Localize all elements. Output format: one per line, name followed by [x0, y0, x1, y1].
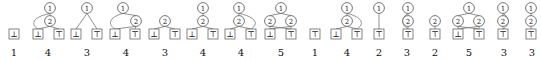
- diagram-canvas: ⊤12: [490, 0, 518, 45]
- svg-text:2: 2: [289, 18, 293, 26]
- diagram-size-label: 3: [501, 45, 507, 60]
- leaf-true: ⊤: [54, 29, 64, 39]
- diagram-14: ⊥⊤1225: [448, 0, 490, 60]
- var-node-1: 1: [82, 3, 93, 14]
- diagram-1: ⊥1: [0, 0, 28, 60]
- diagram-canvas: ⊥⊤12: [106, 0, 146, 45]
- edge-n1-n2: [270, 13, 281, 15]
- var-node-2: 2: [474, 16, 485, 27]
- leaf-false: ⊥: [453, 29, 463, 39]
- diagram-size-label: 3: [404, 45, 410, 60]
- edge-n1-l0: [110, 13, 123, 29]
- svg-text:⊤: ⊤: [93, 30, 101, 39]
- leaf-true: ⊤: [352, 29, 362, 39]
- svg-text:1: 1: [529, 5, 533, 13]
- svg-text:2: 2: [477, 18, 481, 26]
- var-node-1: 1: [498, 3, 509, 14]
- svg-text:2: 2: [406, 18, 410, 26]
- diagram-canvas: ⊤: [302, 0, 328, 45]
- edge-n1-l1: [87, 13, 97, 29]
- svg-text:⊥: ⊥: [266, 30, 274, 39]
- diagram-canvas: ⊥⊤12: [328, 0, 366, 45]
- diagram-size-label: 4: [344, 45, 350, 60]
- diagram-size-label: 5: [466, 45, 472, 60]
- svg-text:2: 2: [501, 18, 505, 26]
- var-node-2: 2: [160, 16, 171, 27]
- leaf-true: ⊤: [374, 29, 384, 39]
- var-node-2: 2: [403, 16, 414, 27]
- svg-text:⊤: ⊤: [247, 30, 255, 39]
- diagram-canvas: ⊤1: [366, 0, 392, 45]
- diagram-size-label: 5: [278, 45, 284, 60]
- svg-text:⊤: ⊤: [499, 30, 507, 39]
- diagram-canvas: ⊥⊤12: [222, 0, 260, 45]
- diagram-16: ⊤123: [518, 0, 541, 60]
- diagram-8: ⊥⊤1225: [260, 0, 302, 60]
- var-node-1: 1: [198, 3, 209, 14]
- var-node-2: 2: [453, 16, 464, 27]
- svg-text:2: 2: [163, 18, 167, 26]
- leaf-false: ⊥: [149, 29, 159, 39]
- svg-text:⊤: ⊤: [55, 30, 63, 39]
- diagram-5: ⊥⊤23: [146, 0, 184, 60]
- diagram-3: ⊥⊤13: [68, 0, 106, 60]
- leaf-true: ⊤: [474, 29, 484, 39]
- diagram-7: ⊥⊤124: [222, 0, 260, 60]
- edge-n1-n3: [281, 13, 291, 15]
- leaf-false: ⊥: [33, 29, 43, 39]
- diagram-10: ⊥⊤124: [328, 0, 366, 60]
- svg-text:⊤: ⊤: [209, 30, 217, 39]
- svg-text:2: 2: [433, 18, 437, 26]
- diagram-12: ⊤123: [392, 0, 422, 60]
- svg-text:⊥: ⊥: [150, 30, 158, 39]
- var-node-2: 2: [498, 16, 509, 27]
- svg-text:⊥: ⊥: [111, 30, 119, 39]
- leaf-true: ⊤: [246, 29, 256, 39]
- diagram-size-label: 4: [123, 45, 129, 60]
- svg-text:2: 2: [456, 18, 460, 26]
- diagram-13: ⊤22: [422, 0, 448, 60]
- var-node-1: 1: [118, 3, 129, 14]
- diagram-4: ⊥⊤124: [106, 0, 146, 60]
- svg-text:⊥: ⊥: [332, 30, 340, 39]
- svg-text:2: 2: [345, 18, 349, 26]
- svg-text:⊤: ⊤: [287, 30, 295, 39]
- diagram-canvas: ⊥: [0, 0, 28, 45]
- diagram-2: ⊥⊤124: [28, 0, 68, 60]
- svg-text:⊤: ⊤: [131, 30, 139, 39]
- leaf-true: ⊤: [170, 29, 180, 39]
- var-node-1: 1: [403, 3, 414, 14]
- svg-text:⊥: ⊥: [226, 30, 234, 39]
- svg-text:⊥: ⊥: [188, 30, 196, 39]
- svg-text:1: 1: [85, 5, 89, 13]
- svg-text:2: 2: [237, 18, 241, 26]
- diagram-canvas: ⊤2: [422, 0, 448, 45]
- svg-text:1: 1: [201, 5, 205, 13]
- svg-text:1: 1: [237, 5, 241, 13]
- leaf-false: ⊥: [9, 29, 19, 39]
- diagram-6: ⊥⊤124: [184, 0, 222, 60]
- leaf-false: ⊥: [71, 29, 81, 39]
- var-node-1: 1: [45, 3, 56, 14]
- svg-text:2: 2: [48, 18, 52, 26]
- var-node-1: 1: [374, 3, 385, 14]
- var-node-1: 1: [234, 3, 245, 14]
- diagram-size-label: 4: [238, 45, 244, 60]
- var-node-1: 1: [526, 3, 537, 14]
- diagram-canvas: ⊤12: [392, 0, 422, 45]
- svg-text:1: 1: [279, 5, 283, 13]
- diagram-15: ⊤123: [490, 0, 518, 60]
- svg-text:⊤: ⊤: [475, 30, 483, 39]
- svg-text:⊥: ⊥: [72, 30, 80, 39]
- svg-text:⊥: ⊥: [34, 30, 42, 39]
- leaf-false: ⊥: [265, 29, 275, 39]
- svg-text:1: 1: [377, 5, 381, 13]
- var-node-1: 1: [342, 3, 353, 14]
- svg-text:2: 2: [268, 18, 272, 26]
- diagram-size-label: 3: [162, 45, 168, 60]
- svg-text:⊤: ⊤: [353, 30, 361, 39]
- diagram-size-label: 1: [11, 45, 17, 60]
- diagram-size-label: 2: [432, 45, 438, 60]
- leaf-false: ⊥: [225, 29, 235, 39]
- diagram-size-label: 3: [84, 45, 90, 60]
